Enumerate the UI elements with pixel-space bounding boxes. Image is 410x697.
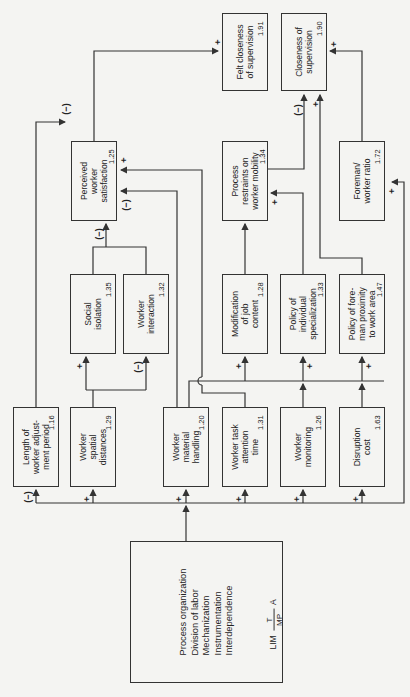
- box-value: 1.91: [256, 21, 265, 36]
- box-text: Worker: [78, 429, 88, 465]
- box-text: Worker task: [230, 424, 240, 470]
- box-text: of supervision: [245, 25, 255, 80]
- source-box: Process organization Division of labor M…: [130, 541, 283, 683]
- source-line: Instrumentation: [212, 569, 224, 656]
- box-text: isolation: [93, 298, 103, 330]
- box-social-isolation: Socialisolation 1.35: [70, 274, 116, 354]
- note-suffix: A: [268, 599, 278, 605]
- box-felt-closeness: Felt closenessof supervision 1.91: [222, 13, 268, 91]
- box-text: restraints on: [240, 152, 250, 209]
- box-text: monitoring: [303, 427, 313, 467]
- sign-minus: (−): [94, 228, 104, 239]
- sign-plus: +: [75, 363, 85, 368]
- box-value: 1.72: [373, 149, 382, 164]
- box-text: supervision: [304, 27, 314, 77]
- box-monitoring: Workermonitoring 1.26: [280, 407, 326, 487]
- box-text: Policy of fore-: [347, 287, 357, 340]
- box-value: 1.47: [375, 282, 384, 297]
- box-value: 1.29: [104, 415, 113, 430]
- box-value: 1.20: [197, 415, 206, 430]
- box-text: Worker: [293, 427, 303, 467]
- box-text: Modification: [230, 291, 240, 337]
- box-value: 1.33: [316, 282, 325, 297]
- box-value: 1.25: [107, 149, 116, 164]
- sign-plus: +: [270, 199, 280, 204]
- box-text: Foreman/: [352, 159, 362, 204]
- source-lines: Process organization Division of labor M…: [178, 569, 236, 656]
- box-text: spatial: [88, 429, 98, 465]
- sign-plus: +: [351, 496, 361, 501]
- box-specialization: Policy ofindividualspecialization 1.33: [280, 274, 326, 354]
- source-line: Interdependence: [224, 569, 236, 656]
- box-text: worker adjust-: [31, 420, 41, 474]
- box-text: satisfaction: [99, 160, 109, 203]
- box-value: 1.31: [256, 415, 265, 430]
- box-spatial-distances: Workerspatialdistances 1.29: [70, 407, 116, 487]
- sign-plus: +: [305, 363, 315, 368]
- sign-minus: (−): [133, 361, 143, 372]
- box-material-handling: Workermaterialhandling 1.20: [163, 407, 209, 487]
- source-line: Division of labor: [189, 569, 201, 656]
- box-text: Felt closeness: [235, 25, 245, 80]
- sign-minus: (−): [293, 104, 303, 115]
- box-worker-interaction: Workerinteraction 1.32: [123, 274, 169, 354]
- box-process-restraints: Processrestraints onworker mobility 1.34: [222, 141, 268, 221]
- sign-plus: +: [311, 101, 321, 106]
- sign-plus: +: [234, 363, 244, 368]
- box-length-adjustment: Length ofworker adjust-ment period 1.16: [13, 407, 59, 487]
- source-line: Mechanization: [201, 569, 213, 656]
- sign-minus: (−): [61, 103, 71, 114]
- box-text: Closeness of: [294, 27, 304, 77]
- box-perceived-satisfaction: Perceivedworkersatisfaction 1.25: [71, 141, 117, 221]
- box-value: 1.28: [256, 282, 265, 297]
- box-text: interaction: [146, 294, 156, 334]
- sign-plus: +: [234, 496, 244, 501]
- box-text: Perceived: [79, 160, 89, 203]
- box-text: time: [250, 424, 260, 470]
- box-value: 1.26: [314, 415, 323, 430]
- sign-minus: (−): [23, 491, 33, 502]
- source-line: Process organization: [178, 569, 190, 656]
- box-text: attention: [240, 424, 250, 470]
- box-text: Disruption: [352, 428, 362, 467]
- box-foreman-ratio: Foreman/worker ratio 1.72: [339, 141, 385, 221]
- lim-note: LIM T MP A: [265, 599, 284, 649]
- box-text: distances: [98, 429, 108, 465]
- box-text: worker: [89, 160, 99, 203]
- box-text: material: [181, 431, 191, 464]
- box-text: Worker: [171, 431, 181, 464]
- box-text: Process: [230, 152, 240, 209]
- box-text: cost: [362, 428, 372, 467]
- box-value: 1.16: [47, 415, 56, 430]
- box-value: 1.32: [157, 282, 166, 297]
- box-text: handling: [191, 431, 201, 464]
- note-fraction: T MP: [265, 609, 284, 631]
- box-task-attention: Worker taskattentiontime 1.31: [222, 407, 268, 487]
- box-disruption-cost: Disruptioncost 1.63: [339, 407, 385, 487]
- box-value: 1.35: [104, 282, 113, 297]
- sign-minus: (−): [121, 199, 131, 210]
- box-text: of job: [240, 291, 250, 337]
- box-value: 1.34: [258, 149, 267, 164]
- note-top: T: [265, 609, 274, 631]
- box-text: man proximity: [357, 287, 367, 340]
- note-prefix: LIM: [268, 635, 278, 649]
- box-value: 1.63: [373, 415, 382, 430]
- box-text: content: [250, 291, 260, 337]
- note-bottom: MP: [275, 609, 284, 631]
- sign-plus: +: [82, 496, 92, 501]
- sign-plus: +: [364, 363, 374, 368]
- box-text: Policy of: [288, 288, 298, 340]
- box-job-content: Modificationof jobcontent 1.28: [222, 274, 268, 354]
- box-text: Social: [83, 298, 93, 330]
- sign-plus: +: [213, 39, 223, 44]
- sign-plus: +: [387, 188, 397, 193]
- box-text: Length of: [21, 420, 31, 474]
- box-closeness: Closeness ofsupervision 1.90: [281, 13, 327, 91]
- sign-plus: +: [119, 157, 129, 162]
- box-text: Worker: [136, 294, 146, 334]
- box-text: worker ratio: [362, 159, 372, 204]
- box-text: individual: [298, 288, 308, 340]
- sign-plus: +: [292, 496, 302, 501]
- box-value: 1.90: [315, 21, 324, 36]
